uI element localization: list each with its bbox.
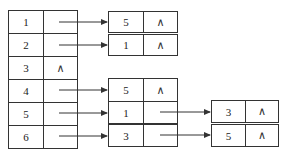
arrows-layer (0, 0, 285, 158)
